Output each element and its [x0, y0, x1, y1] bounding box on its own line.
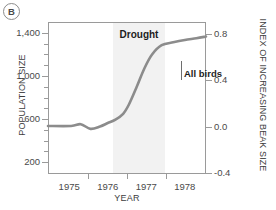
- x-tick-mid-1977: [166, 174, 167, 179]
- x-tick-label-1975: 1975: [47, 181, 91, 192]
- chart-figure: B Drought 2006001,0001,400-0.40.00.40.81…: [0, 0, 276, 210]
- series-all-birds-line: [48, 22, 206, 173]
- series-callout-leader-line: [181, 61, 182, 80]
- x-tick-label-1978: 1978: [163, 181, 207, 192]
- series-callout-label: All birds: [184, 68, 222, 79]
- y2-axis-title: INDEX OF INCREASING BEAK SIZE: [258, 0, 268, 190]
- y2-tick--0.4: [206, 173, 212, 174]
- panel-label-b: B: [3, 3, 20, 20]
- x-tick-label-1976: 1976: [86, 181, 130, 192]
- x-tick-label-1977: 1977: [124, 181, 168, 192]
- y2-tick-0.0: [206, 127, 212, 128]
- x-axis-title: YEAR: [48, 193, 206, 203]
- y2-tick-label--0.4: -0.4: [214, 167, 240, 178]
- y2-tick-label-0.8: 0.8: [214, 28, 240, 39]
- y-axis-title: POPULATION SIZE: [17, 20, 27, 170]
- x-tick-mid-1976: [127, 174, 128, 179]
- y2-tick-label-0.0: 0.0: [214, 121, 240, 132]
- y2-tick-0.8: [206, 34, 212, 35]
- x-tick-mid-1975: [88, 174, 89, 179]
- y2-tick-0.4: [206, 80, 212, 81]
